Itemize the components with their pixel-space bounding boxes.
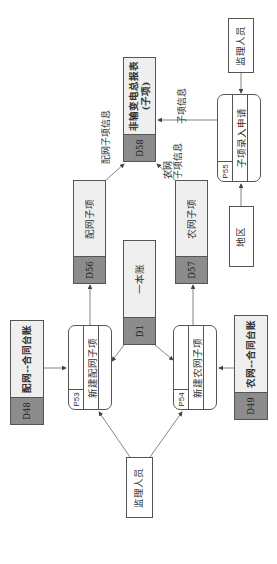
entity-label: 监理人员 <box>134 468 145 508</box>
process-p54[interactable]: P54 新建农网子项 <box>173 325 217 410</box>
entity-label: 地区 <box>236 227 247 247</box>
datastore-label: 非输变电总报表 <box>128 61 139 131</box>
datastore-d58[interactable]: D58 非输变电总报表 (子项) <box>123 57 156 162</box>
entity-region[interactable]: 地区 <box>229 206 254 267</box>
flow-label-zixiang-info: 子项信息 <box>178 88 188 124</box>
datastore-d57[interactable]: D57 农网子项 <box>175 180 208 284</box>
process-p53[interactable]: P53 新建配网子项 <box>68 325 112 410</box>
datastore-d48[interactable]: D48 配网--合同台账 <box>10 320 44 425</box>
datastore-id: D57 <box>176 256 207 283</box>
flow-label-nongwang-info: 农网 子项信息 <box>164 143 184 179</box>
process-p55[interactable]: P55 子项录入申请 <box>217 94 261 182</box>
process-id: P53 <box>69 389 83 409</box>
datastore-label-group: 非输变电总报表 (子项) <box>124 58 155 134</box>
datastore-label: 农网子项 <box>176 181 207 256</box>
datastore-id: D58 <box>124 134 155 161</box>
process-id: P54 <box>174 389 188 409</box>
process-divider <box>98 326 99 409</box>
process-divider <box>247 95 248 181</box>
entity-supervisor-bottom[interactable]: 监理人员 <box>126 457 153 518</box>
entity-label: 监理人员 <box>236 26 247 66</box>
datastore-label: 配网--合同台账 <box>11 321 43 397</box>
datastore-id: D56 <box>74 256 105 283</box>
datastore-label: 配网子项 <box>74 181 105 256</box>
datastore-d49[interactable]: D49 农网--合同台账 <box>234 315 268 420</box>
flow-label-line2: 子项信息 <box>174 143 184 179</box>
datastore-label: 农网--合同台账 <box>235 316 267 392</box>
datastore-id: D48 <box>11 397 43 424</box>
datastore-d56[interactable]: D56 配网子项 <box>73 180 106 284</box>
datastore-id: D49 <box>235 392 267 419</box>
data-flow-diagram: 监理人员 监理人员 地区 D48 配网--合同台账 D49 农网--合同台账 D… <box>0 0 277 564</box>
datastore-label: 一本账 <box>124 241 155 317</box>
entity-supervisor-top[interactable]: 监理人员 <box>228 18 254 73</box>
process-divider <box>203 326 204 409</box>
process-id: P55 <box>218 161 232 181</box>
datastore-sublabel: (子项) <box>140 82 151 111</box>
datastore-id: D1 <box>124 317 155 344</box>
flow-label-peiwang-info: 配网子项信息 <box>102 110 112 164</box>
datastore-d1[interactable]: D1 一本账 <box>123 240 156 345</box>
